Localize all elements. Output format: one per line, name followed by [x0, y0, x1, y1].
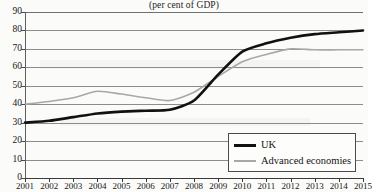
- y-tick-mark: [21, 104, 25, 105]
- y-tick-label: 20: [2, 136, 22, 146]
- y-tick-mark: [21, 67, 25, 68]
- y-tick-mark: [21, 160, 25, 161]
- series-line-advanced-economies: [25, 49, 363, 104]
- x-tick-mark: [339, 178, 340, 182]
- x-tick-mark: [49, 178, 50, 182]
- x-tick-mark: [242, 178, 243, 182]
- x-tick-mark: [25, 178, 26, 182]
- legend-item-advanced-economies: Advanced economies: [234, 153, 351, 169]
- x-axis-labels: 2001200220032004200520062007200820092010…: [0, 181, 368, 192]
- legend-label-advanced-economies: Advanced economies: [261, 155, 351, 167]
- x-tick-mark: [97, 178, 98, 182]
- legend-label-uk: UK: [261, 139, 276, 151]
- x-tick-mark: [146, 178, 147, 182]
- x-tick-mark: [194, 178, 195, 182]
- x-tick-mark: [363, 178, 364, 182]
- legend-swatch-uk: [234, 144, 256, 147]
- y-tick-mark: [21, 141, 25, 142]
- y-tick-label: 10: [2, 155, 22, 165]
- x-tick-mark: [315, 178, 316, 182]
- y-tick-label: 90: [2, 7, 22, 17]
- y-tick-mark: [21, 12, 25, 13]
- y-tick-label: 50: [2, 81, 22, 91]
- y-tick-label: 70: [2, 44, 22, 54]
- chart-legend: UK Advanced economies: [228, 133, 356, 172]
- y-tick-mark: [21, 49, 25, 50]
- legend-item-uk: UK: [234, 137, 276, 153]
- x-tick-label: 2015: [348, 181, 377, 191]
- y-tick-label: 30: [2, 118, 22, 128]
- x-tick-mark: [218, 178, 219, 182]
- y-tick-label: 60: [2, 62, 22, 72]
- x-tick-mark: [73, 178, 74, 182]
- x-tick-mark: [291, 178, 292, 182]
- series-line-uk: [25, 30, 363, 122]
- y-axis-labels: 0102030405060708090: [0, 0, 22, 192]
- y-tick-mark: [21, 30, 25, 31]
- y-tick-label: 40: [2, 99, 22, 109]
- y-tick-label: 80: [2, 25, 22, 35]
- y-tick-mark: [21, 86, 25, 87]
- legend-swatch-advanced-economies: [234, 160, 256, 162]
- x-tick-mark: [266, 178, 267, 182]
- x-tick-mark: [122, 178, 123, 182]
- x-tick-mark: [170, 178, 171, 182]
- chart-title: (per cent of GDP): [0, 0, 368, 11]
- y-tick-mark: [21, 123, 25, 124]
